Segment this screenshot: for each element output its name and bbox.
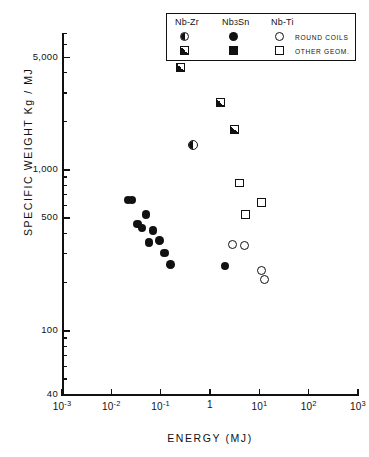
y-tick xyxy=(62,346,67,347)
figure-scatter-plot: 5,0001,00050010040 10-310-210-1110110210… xyxy=(0,0,369,457)
data-point-circle-filled xyxy=(138,224,147,233)
data-point-square-open xyxy=(235,179,244,188)
data-point-circle-open xyxy=(260,275,269,284)
data-point-square-open xyxy=(257,198,266,207)
x-tick xyxy=(357,389,359,396)
y-tick xyxy=(62,33,67,34)
data-point-circle-filled xyxy=(142,210,151,219)
x-tick-label: 101 xyxy=(251,399,267,412)
data-point-square-open xyxy=(241,210,250,219)
data-point-square-half xyxy=(176,63,185,72)
y-tick xyxy=(62,355,67,356)
legend-symbol-nb3sn-other xyxy=(229,46,238,55)
data-point-circle-filled xyxy=(221,262,230,271)
data-point-square-half xyxy=(216,98,225,107)
data-point-square-half xyxy=(230,125,239,134)
legend-symbol-nbzr-other xyxy=(180,46,189,55)
data-point-circle-open xyxy=(257,266,266,275)
y-tick xyxy=(62,337,67,338)
data-point-circle-open xyxy=(240,241,249,250)
y-tick xyxy=(62,233,67,234)
legend-header-nb3sn-pre: Nb xyxy=(222,17,234,27)
x-tick xyxy=(111,389,113,396)
x-tick xyxy=(209,389,211,396)
data-point-circle-open xyxy=(228,240,237,249)
x-axis-title: ENERGY (MJ) xyxy=(62,432,358,444)
x-tick-label: 102 xyxy=(301,399,317,412)
y-tick xyxy=(62,253,67,254)
y-tick-label: 40 xyxy=(0,388,64,399)
legend-header-nbzr: Nb-Zr xyxy=(175,17,199,27)
y-tick xyxy=(62,366,67,367)
legend-box: Nb-Zr Nb3Sn Nb-Ti ROUND COILS OTHER GEOM… xyxy=(166,13,356,61)
y-tick xyxy=(62,205,67,206)
legend-header-nbti: Nb-Ti xyxy=(271,17,294,27)
legend-label-round-coils: ROUND COILS xyxy=(295,34,349,41)
x-tick-label: 10-1 xyxy=(151,399,170,412)
legend-header-nb3sn-post: Sn xyxy=(238,17,249,27)
y-tick xyxy=(62,72,67,73)
x-tick-label: 103 xyxy=(350,399,366,412)
data-point-circle-filled xyxy=(149,226,158,235)
data-point-circle-filled xyxy=(128,196,137,205)
data-point-circle-filled xyxy=(155,236,164,245)
data-point-circle-filled xyxy=(160,249,169,258)
y-tick xyxy=(62,121,67,122)
y-tick xyxy=(62,378,67,379)
x-tick xyxy=(259,389,261,396)
y-tick xyxy=(62,194,67,195)
legend-header-nb3sn: Nb3Sn xyxy=(222,17,249,27)
data-point-circle-half xyxy=(188,140,198,150)
y-tick xyxy=(62,282,67,283)
legend-symbol-nb3sn-round xyxy=(229,32,238,41)
data-point-circle-filled xyxy=(145,238,154,247)
legend-label-other-geom: OTHER GEOM. xyxy=(295,48,350,55)
y-tick xyxy=(62,92,67,93)
legend-symbol-nbti-round xyxy=(275,32,284,41)
x-tick xyxy=(308,389,310,396)
x-tick-label: 10-3 xyxy=(53,399,72,412)
legend-symbol-nbzr-round xyxy=(180,32,189,41)
y-axis-title: SPECIFIC WEIGHT Kg / MJ xyxy=(22,116,34,236)
x-tick xyxy=(160,389,162,396)
y-tick xyxy=(62,176,67,177)
legend-symbol-nbti-other xyxy=(275,46,284,55)
x-tick-label: 1 xyxy=(207,399,213,410)
x-tick-label: 10-2 xyxy=(102,399,121,412)
x-tick xyxy=(61,389,63,396)
y-tick xyxy=(62,185,67,186)
data-point-circle-filled xyxy=(166,260,175,269)
y-tick xyxy=(62,44,67,45)
y-tick-label: 100 xyxy=(0,324,64,335)
y-tick-label: 5,000 xyxy=(0,51,64,62)
